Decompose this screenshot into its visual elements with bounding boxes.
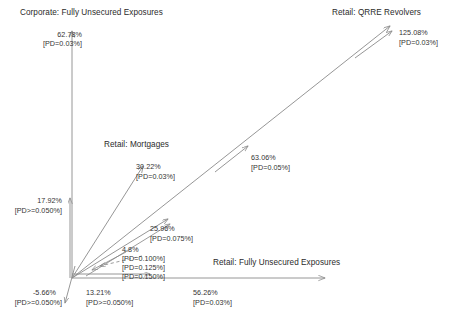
pd-label-63-06: [PD=0.05%] (251, 163, 290, 172)
pd-label-17-92: [PD>=0.050%] (0, 206, 62, 215)
value-label-13-21: 13.21% (86, 288, 111, 297)
pd-label-13-21: [PD>=0.050%] (86, 298, 133, 307)
value-label-25-96: 25.96% (150, 224, 175, 233)
pd-label-62-78: [PD=0.03%] (6, 39, 82, 48)
value-label-30-22: 30.22% (136, 162, 161, 171)
axis-label-corporate-fully-unsecured: Corporate: Fully Unsecured Exposures (20, 8, 163, 18)
value-label-4-8: 4.8% (122, 245, 139, 254)
axis-label-retail-qrre-revolvers: Retail: QRRE Revolvers (332, 8, 421, 18)
arrow-retail-qrre-revolvers-125 (72, 26, 390, 278)
pd-label-4-8-150: [PD=0.150%] (122, 272, 165, 281)
pd-label-25-96: [PD=0.075%] (150, 234, 193, 243)
value-label-56-26: 56.26% (193, 288, 218, 297)
pd-label-125-08: [PD=0.03%] (399, 38, 438, 47)
pd-label-minus-5-66: [PD>=0.050%] (0, 298, 62, 307)
pd-label-4-8-125: [PD=0.125%] (122, 263, 165, 272)
value-label-125-08: 125.08% (399, 28, 428, 37)
pd-label-30-22: [PD=0.03%] (136, 172, 175, 181)
vector-diagram-canvas: Corporate: Fully Unsecured Exposures 62.… (0, 0, 454, 318)
value-label-17-92: 17.92% (2, 196, 62, 205)
value-label-63-06: 63.06% (251, 153, 276, 162)
value-label-minus-5-66: -5.66% (0, 288, 56, 297)
axis-label-retail-fully-unsecured: Retail: Fully Unsecured Exposures (213, 258, 340, 268)
value-label-62-78: 62.78% (16, 30, 82, 39)
axis-label-retail-mortgages: Retail: Mortgages (104, 140, 169, 150)
pd-label-4-8-100: [PD=0.100%] (122, 254, 165, 263)
arrow-marker-63 (215, 146, 248, 172)
arrow-retail-mortgages-4-8-b (92, 252, 126, 270)
arrow-retail-qrre-revolvers-63 (355, 31, 392, 58)
pd-label-56-26: [PD=0.03%] (193, 298, 232, 307)
